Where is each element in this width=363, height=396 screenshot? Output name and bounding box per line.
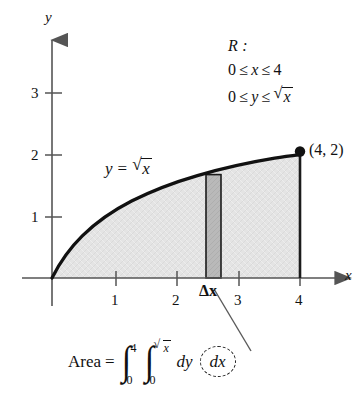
outer-integral: ∫40 (121, 344, 132, 378)
inner-upper-radicand: x (163, 340, 171, 354)
region-y-radicand: x (282, 87, 292, 105)
inner-integral: ∫√x0 (144, 344, 155, 378)
dashed-circle-icon (200, 346, 236, 377)
region-y-upper-radical: √x (273, 87, 292, 105)
outer-upper-limit: 4 (131, 342, 137, 354)
region-constraint-x: 0≤x≤4 (228, 62, 282, 78)
radical-sign-icon: √ (132, 156, 142, 173)
representative-strip (206, 175, 221, 278)
region-x-var: x (251, 61, 258, 78)
region-heading: R : (228, 38, 248, 54)
x-tick-label-1: 1 (111, 293, 119, 308)
delta-x-label: Δx (199, 283, 217, 299)
outer-differential-circled: dx (205, 353, 231, 370)
y-tick-label-2: 2 (31, 148, 39, 163)
curve-label-lhs: y (105, 159, 113, 178)
x-tick-label-2: 2 (172, 293, 180, 308)
x-tick-label-4: 4 (295, 293, 303, 308)
y-tick-label-3: 3 (31, 86, 39, 101)
outer-lower-limit: 0 (127, 374, 133, 386)
diagram-canvas (0, 0, 363, 396)
inner-lower-limit: 0 (150, 374, 156, 386)
region-y-var: y (251, 88, 258, 105)
region-x-rel1: ≤ (239, 61, 248, 78)
region-x-upper: 4 (273, 61, 281, 78)
curve-label-radicand: x (141, 158, 152, 177)
point-coordinate-label: (4, 2) (309, 142, 344, 158)
area-formula: Area = ∫40 ∫√x0 dy dx (68, 344, 231, 378)
curve-label-radical: √x (132, 158, 152, 177)
area-formula-equals: = (105, 353, 115, 370)
radical-sign-icon: √ (273, 85, 282, 101)
region-x-lower: 0 (228, 61, 236, 78)
leader-line-dx (214, 289, 251, 351)
region-x-rel2: ≤ (262, 61, 271, 78)
region-y-rel2: ≤ (262, 88, 271, 105)
y-tick-label-1: 1 (31, 210, 39, 225)
curve-label-equals: = (118, 159, 128, 178)
figure-container: y x 3 2 1 1 2 3 4 R : 0≤x≤4 0≤y≤√x y=√x … (0, 0, 363, 396)
region-y-rel1: ≤ (239, 88, 248, 105)
region-y-lower: 0 (228, 88, 236, 105)
curve-equation-label: y=√x (105, 158, 152, 177)
region-constraint-y: 0≤y≤√x (228, 87, 293, 105)
radical-sign-icon: √ (154, 338, 161, 350)
point-4-2-marker (295, 146, 305, 156)
x-tick-label-3: 3 (234, 293, 242, 308)
shaded-region-R (52, 155, 300, 278)
area-formula-name: Area (68, 353, 101, 370)
inner-upper-limit-radical: √x (154, 340, 171, 354)
y-axis-label: y (45, 10, 52, 25)
inner-differential: dy (177, 353, 193, 370)
x-axis-label: x (345, 268, 352, 283)
